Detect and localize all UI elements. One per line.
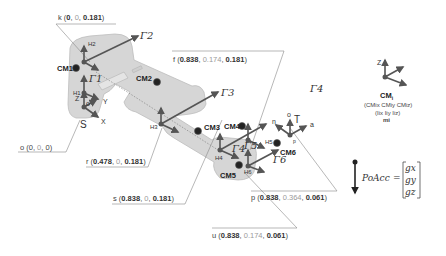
cm3-dot bbox=[195, 128, 202, 135]
tool-n-label: n bbox=[272, 118, 276, 125]
axis-z-label: Z bbox=[75, 95, 80, 102]
joint-h2-label: H2 bbox=[88, 41, 96, 47]
cm-legend: Z CMi (CMix CMiy CMiz) (Iix Iiy Iiz) mi bbox=[364, 59, 412, 123]
gravity-lhs: PoAcc bbox=[361, 173, 390, 183]
tool-a-label: a bbox=[310, 121, 314, 128]
gravity-vector: PoAcc = gx gy gz bbox=[353, 160, 421, 199]
point-k-label: k (0, 0, 0.181) bbox=[58, 13, 105, 22]
cm3-label: CM3 bbox=[204, 123, 220, 132]
gamma-6-label: Γ6 bbox=[272, 154, 287, 165]
gravity-gz: gz bbox=[405, 187, 416, 197]
legend-inertia: (Iix Iiy Iiz) bbox=[375, 110, 400, 116]
gamma-5-label: Γ5 bbox=[243, 140, 257, 151]
joint-h4-label: H4 bbox=[215, 155, 223, 161]
point-r-label: r (0.478, 0, 0.181) bbox=[86, 157, 146, 166]
point-p-label: p (0.838, 0.364, 0.061) bbox=[251, 193, 327, 202]
gravity-eq: = bbox=[393, 173, 401, 183]
tool-frame-label: T bbox=[294, 114, 300, 125]
cm4-label: CM4 bbox=[224, 122, 241, 131]
point-u-label: u (0.838, 0.174, 0.061) bbox=[212, 231, 288, 240]
cm5-label: CM5 bbox=[220, 171, 236, 180]
gamma-3-label: Γ3 bbox=[220, 87, 234, 98]
joint-h5-label: H5 bbox=[265, 139, 273, 145]
axis-x-label: X bbox=[101, 118, 106, 125]
tool-p-label: p bbox=[293, 138, 296, 144]
cm1-label: CM1 bbox=[57, 64, 73, 73]
origin-label: o bbox=[86, 100, 90, 107]
robot-kinematic-diagram: k (0, 0, 0.181) o (0, 0, 0) r (0.478, 0,… bbox=[0, 0, 446, 256]
cm2-label: CM2 bbox=[136, 74, 152, 83]
cm1-dot bbox=[73, 65, 80, 72]
tool-o-label: o bbox=[287, 111, 291, 118]
gamma-4-label: Γ4 bbox=[309, 83, 323, 94]
axis-y-label: Y bbox=[103, 98, 108, 105]
cm6-dot bbox=[274, 140, 281, 147]
gravity-gx: gx bbox=[405, 163, 416, 173]
legend-cm-coords: (CMix CMiy CMiz) bbox=[364, 102, 412, 108]
legend-cm-title: CMi bbox=[380, 91, 394, 101]
gamma-1-label: Γ1 bbox=[88, 73, 102, 84]
cm2-dot bbox=[154, 79, 161, 86]
base-frame-label: S bbox=[80, 119, 87, 130]
point-o-label: o (0, 0, 0) bbox=[20, 143, 53, 152]
gravity-gy: gy bbox=[405, 175, 417, 185]
point-s-label: s (0.838, 0, 0.181) bbox=[113, 194, 174, 203]
joint-h1-label: H1 bbox=[73, 90, 81, 96]
legend-mass: mi bbox=[383, 117, 390, 123]
legend-z-label: Z bbox=[377, 59, 382, 66]
joint-h6-label: H6 bbox=[244, 169, 252, 175]
gamma-2-label: Γ2 bbox=[139, 30, 153, 41]
joint-h3-label: H3 bbox=[150, 124, 158, 130]
point-f-label: f (0.838, 0.174, 0.181) bbox=[173, 55, 247, 64]
cm5-dot bbox=[236, 162, 243, 169]
